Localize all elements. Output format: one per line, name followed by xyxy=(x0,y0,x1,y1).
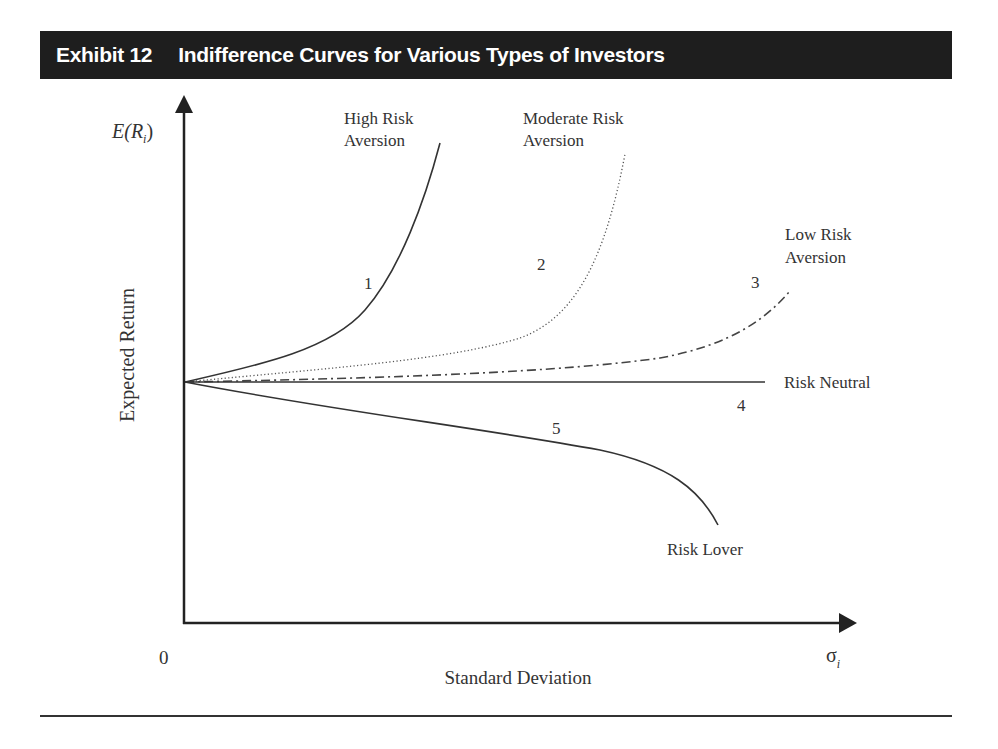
y-axis-symbol: E(Ri) xyxy=(111,120,153,146)
curve-1-label: High Risk xyxy=(344,109,414,128)
curve-2-label-line2: Aversion xyxy=(523,131,585,150)
curve-5-risk-lover xyxy=(185,382,718,525)
origin-label: 0 xyxy=(159,647,169,668)
curve-1-label-line2: Aversion xyxy=(344,131,406,150)
curve-1-number: 1 xyxy=(364,274,373,293)
curve-3-label: Low Risk xyxy=(785,225,852,244)
curve-2-label: Moderate Risk xyxy=(523,109,624,128)
indifference-curves-chart: E(Ri) Expected Return 0 σi Standard Devi… xyxy=(0,0,998,749)
curve-5-number: 5 xyxy=(552,419,561,438)
x-axis-symbol: σi xyxy=(826,644,840,671)
x-axis-arrow-icon xyxy=(839,613,857,633)
y-axis-label: Expected Return xyxy=(116,288,139,422)
curve-3-label-line2: Aversion xyxy=(785,248,847,267)
curve-1-high-risk-aversion xyxy=(185,143,440,382)
curve-4-number: 4 xyxy=(737,396,746,415)
curve-2-number: 2 xyxy=(537,255,546,274)
curve-3-number: 3 xyxy=(751,273,760,292)
bottom-divider xyxy=(40,715,952,717)
curve-3-low-risk-aversion xyxy=(185,291,790,382)
curve-5-label: Risk Lover xyxy=(667,540,743,559)
curve-2-moderate-risk-aversion xyxy=(185,154,625,382)
curve-4-label: Risk Neutral xyxy=(784,373,871,392)
x-axis-label: Standard Deviation xyxy=(444,667,592,688)
y-axis-arrow-icon xyxy=(175,95,193,113)
